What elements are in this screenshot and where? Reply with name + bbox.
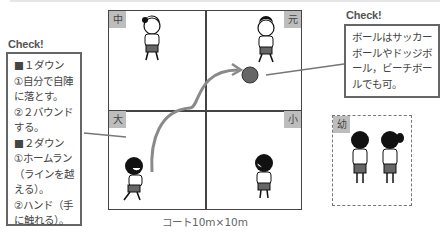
child-figure-icon: [124, 157, 143, 200]
ball-icon: [242, 67, 258, 83]
child-figure-icon: [351, 131, 369, 183]
left-note-connector: [84, 133, 126, 137]
child-figure-icon: [255, 154, 273, 198]
child-figure-icon: [142, 15, 160, 60]
child-figure-icon: [258, 16, 274, 62]
right-note-connector: [266, 64, 344, 75]
child-figure-icon: [381, 131, 404, 183]
illustration-layer: [0, 0, 446, 232]
throw-arrow-icon: [152, 64, 241, 172]
